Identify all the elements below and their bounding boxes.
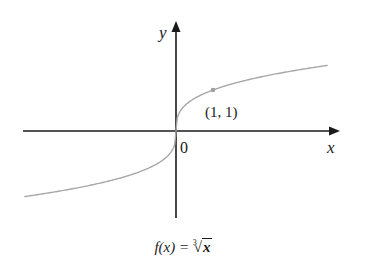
y-axis-label: y bbox=[157, 23, 167, 42]
origin-label: 0 bbox=[180, 139, 188, 156]
cube-root-symbol: 3√x bbox=[193, 239, 212, 256]
cube-root-graph: y x 0 (1, 1) bbox=[0, 0, 366, 272]
caption-lhs: f(x) = bbox=[154, 239, 192, 255]
function-caption: f(x) = 3√x bbox=[0, 239, 366, 256]
root-index: 3 bbox=[193, 238, 197, 247]
y-axis-arrow-icon bbox=[172, 21, 181, 32]
radicand: x bbox=[202, 238, 212, 255]
point-marker bbox=[211, 88, 216, 93]
point-label: (1, 1) bbox=[205, 104, 238, 121]
x-axis-arrow-icon bbox=[329, 127, 340, 136]
x-axis-label: x bbox=[326, 138, 335, 157]
